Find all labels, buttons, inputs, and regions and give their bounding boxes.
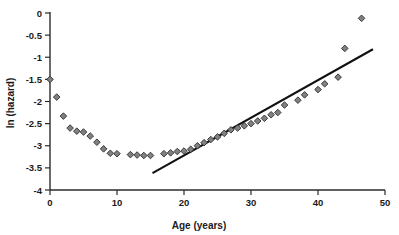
linear-trend-line [153, 49, 373, 173]
data-point-marker [80, 129, 87, 136]
data-point-marker [321, 81, 328, 88]
data-point-marker [342, 45, 349, 52]
data-point-marker [107, 150, 114, 157]
data-point-marker [67, 125, 74, 132]
linear-trend-line [153, 49, 373, 173]
x-axis-tick-labels: 01020304050 [47, 197, 390, 208]
y-tick-label: -2 [34, 96, 42, 107]
y-tick-label: -1.5 [26, 74, 43, 85]
data-point-marker [94, 139, 101, 146]
data-point-marker [254, 118, 261, 125]
data-point-marker [315, 86, 322, 93]
scatter-plot: 01020304050 0-0.5-1-1.5-2-2.5-3-3.5-4 Ag… [0, 0, 399, 235]
y-tick-label: 0 [37, 8, 42, 19]
y-axis-ticks [45, 13, 50, 190]
data-point-marker [60, 113, 67, 120]
y-tick-label: -3.5 [26, 162, 43, 173]
data-point-marker [335, 74, 342, 81]
data-point-marker [87, 133, 94, 140]
data-point-marker [268, 111, 275, 118]
y-tick-label: -1 [34, 52, 43, 63]
data-point-marker [358, 15, 365, 22]
data-point-marker [53, 94, 60, 101]
data-point-marker [261, 115, 268, 122]
y-tick-label: -4 [34, 185, 43, 196]
x-axis-title: Age (years) [172, 220, 226, 231]
data-point-marker [74, 128, 81, 135]
data-point-marker [147, 152, 154, 159]
data-point-marker [167, 150, 174, 157]
data-point-marker [100, 146, 107, 153]
x-tick-label: 10 [112, 197, 123, 208]
x-tick-label: 0 [47, 197, 52, 208]
x-tick-label: 50 [380, 197, 391, 208]
data-point-marker [134, 152, 141, 159]
data-point-marker [248, 120, 255, 127]
data-point-marker [141, 152, 148, 159]
data-point-marker [127, 151, 134, 158]
axes [50, 12, 385, 190]
data-point-marker [301, 92, 308, 99]
x-axis-ticks [50, 190, 385, 195]
chart-container: 01020304050 0-0.5-1-1.5-2-2.5-3-3.5-4 Ag… [0, 0, 399, 235]
data-point-marker [161, 150, 168, 157]
y-tick-label: -2.5 [26, 118, 43, 129]
y-tick-label: -3 [34, 140, 42, 151]
data-point-markers [47, 15, 365, 159]
data-point-marker [295, 97, 302, 104]
data-point-marker [275, 109, 282, 116]
y-axis-title: ln (hazard) [5, 78, 16, 129]
data-point-marker [281, 102, 288, 109]
data-point-marker [174, 148, 181, 155]
y-tick-label: -0.5 [26, 30, 43, 41]
y-axis-tick-labels: 0-0.5-1-1.5-2-2.5-3-3.5-4 [26, 8, 43, 196]
data-point-marker [47, 76, 54, 83]
data-point-marker [114, 150, 121, 157]
x-tick-label: 40 [313, 197, 324, 208]
x-tick-label: 30 [246, 197, 257, 208]
x-tick-label: 20 [179, 197, 190, 208]
